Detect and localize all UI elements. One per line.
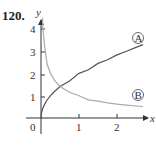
y-tick-3: 3 [30,46,36,58]
x-tick-1: 1 [76,121,82,133]
x-tick-2: 2 [114,121,120,133]
curve-b [43,18,144,107]
chart: 1 2 3 4 0 1 2 x y A B [0,0,156,167]
x-tick-0: 0 [30,121,36,133]
y-tick-1: 1 [30,91,36,103]
x-ticks [79,114,117,118]
label-b: B [133,89,144,101]
y-tick-4: 4 [30,23,36,35]
y-axis-label: y [35,6,41,18]
y-tick-2: 2 [30,69,36,81]
svg-text:B: B [135,89,142,101]
curve-a [41,45,143,118]
svg-text:A: A [135,32,143,44]
x-axis-label: x [149,112,155,124]
label-a: A [133,32,144,44]
